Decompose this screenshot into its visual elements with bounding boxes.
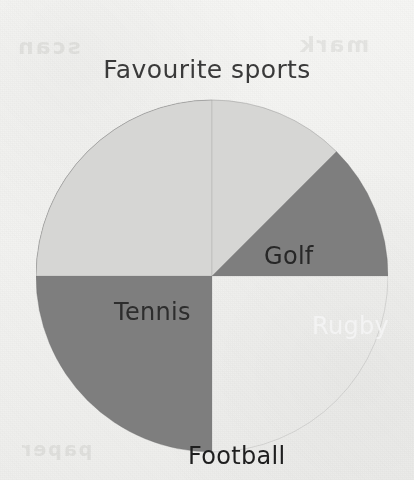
pie-chart: Tennis Golf Rugby Football xyxy=(36,98,388,454)
ghost-text-top-right: mark xyxy=(298,32,369,57)
scanned-page: scan mark paper Favourite sports Tennis … xyxy=(0,0,414,480)
chart-title: Favourite sports xyxy=(0,55,414,84)
pie-slice-tennis xyxy=(36,100,212,276)
pie-slice-group xyxy=(36,100,388,452)
pie-chart-svg xyxy=(36,98,388,454)
